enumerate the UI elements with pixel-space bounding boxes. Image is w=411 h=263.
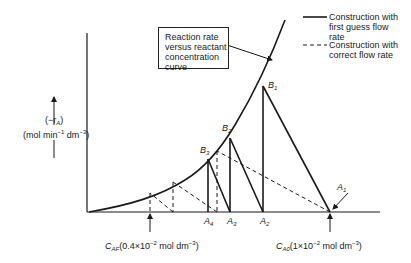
curve-box-line3: concentration (159, 52, 228, 62)
curve-box-line2: versus reactant (159, 42, 228, 52)
label-a4: A4 (204, 216, 213, 229)
curve-box-line1: Reaction rate (159, 28, 228, 42)
label-a2: A2 (260, 216, 269, 229)
curve-label-box: Reaction rate versus reactant concentrat… (158, 27, 229, 69)
y-axis-units: (mol min−1 dm−3) (23, 127, 89, 140)
legend-solid-text: Construction with first guess flow rate (329, 12, 398, 42)
label-a3: A3 (227, 216, 236, 229)
ca0-label: CA0(1×10−2 mol dm−3) (276, 238, 362, 254)
label-b3: B3 (200, 145, 209, 158)
legend-dashed-text: Construction with correct flow rate (329, 40, 398, 60)
label-b1: B1 (268, 80, 277, 93)
a1-pointer-arrow (333, 193, 348, 209)
caf-label: CAF(0.4×10−2 mol dm−3) (105, 238, 199, 254)
label-a1: A1 (337, 182, 346, 195)
label-b2: B2 (222, 123, 231, 136)
solid-construction (208, 86, 330, 212)
curve-box-line4: curve (159, 62, 228, 72)
box-pointer-arrow (227, 45, 272, 60)
